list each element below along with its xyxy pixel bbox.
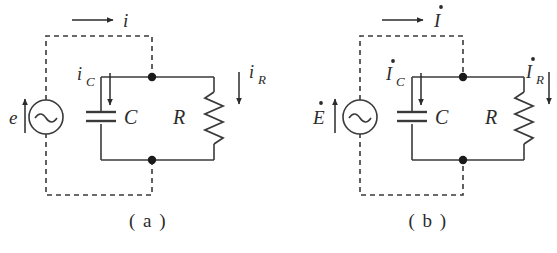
panel-a-capacitor-current-label-group: i C bbox=[77, 64, 95, 89]
panel-b-total-current-label: I bbox=[433, 10, 442, 31]
panel-a-dashed-upper bbox=[46, 36, 152, 100]
panel-a-capacitor-label: C bbox=[124, 106, 138, 128]
panel-b-total-current-label-group: I bbox=[433, 5, 443, 31]
panel-a-resistor-icon bbox=[205, 92, 223, 144]
panel-b-resistor-icon bbox=[515, 92, 533, 144]
panel-a-resistor-current-label-group: i R bbox=[249, 62, 266, 87]
panel-b-total-current-phasor-dot bbox=[439, 5, 443, 9]
panel-b-source-label-group: E bbox=[312, 101, 325, 128]
panel-b-caption: ( b ) bbox=[358, 210, 498, 232]
panel-b-source-label: E bbox=[312, 107, 325, 128]
panel-a-caption: ( a ) bbox=[78, 210, 218, 232]
panel-a-bottom-junction-node bbox=[148, 156, 156, 164]
panel-a-dashed-lower bbox=[46, 133, 152, 195]
panel-b-capacitor-current-phasor-dot bbox=[391, 59, 395, 63]
panel-b-capacitor-current-label-group: I C bbox=[385, 59, 405, 89]
panel-b-resistor-current-phasor-dot bbox=[531, 57, 535, 61]
panel-b-capacitor-current-label: I bbox=[385, 64, 393, 84]
panel-b-top-junction-node bbox=[459, 73, 467, 81]
panel-b-capacitor-label: C bbox=[435, 106, 449, 128]
panel-a-capacitor-current-subscript: C bbox=[86, 74, 95, 89]
panel-b-resistor-current-subscript: R bbox=[535, 72, 544, 87]
panel-b-capacitor-current-subscript: C bbox=[396, 74, 405, 89]
panel-a-source-label: e bbox=[9, 107, 17, 128]
panel-a-resistor-label: R bbox=[172, 106, 185, 128]
panel-b-source-phasor-dot bbox=[319, 101, 323, 105]
panel-a-capacitor-current-label: i bbox=[77, 64, 82, 84]
panel-b-resistor-label: R bbox=[484, 106, 497, 128]
panel-a-top-junction-node bbox=[148, 73, 156, 81]
panel-b-resistor-current-label-group: I R bbox=[525, 57, 544, 87]
panel-b-resistor-current-label: I bbox=[525, 62, 533, 82]
panel-a-total-current-label: i bbox=[123, 10, 128, 31]
panel-a-resistor-current-label: i bbox=[249, 62, 254, 82]
circuit-figure: e i i C i R C R bbox=[0, 0, 557, 253]
panel-a-resistor-current-subscript: R bbox=[257, 72, 266, 87]
panel-b-bottom-junction-node bbox=[459, 156, 467, 164]
